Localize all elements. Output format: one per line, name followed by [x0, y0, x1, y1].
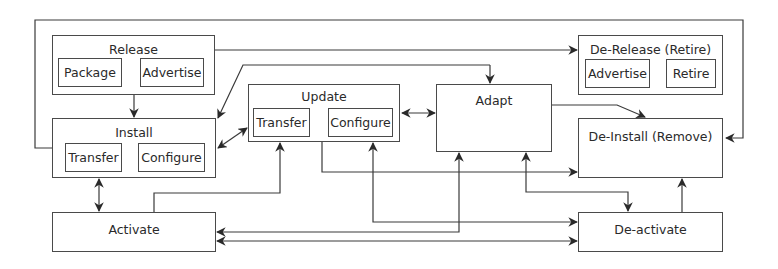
adapt-box: Adapt — [436, 84, 552, 152]
de-activate-box: De-activate — [578, 212, 723, 252]
de-install-box: De-Install (Remove) — [578, 118, 723, 178]
release-advertise-step: Advertise — [140, 58, 204, 87]
de-activate-title: De-activate — [579, 222, 722, 237]
de-release-title: De-Release (Retire) — [579, 42, 722, 57]
install-transfer-step: Transfer — [65, 143, 122, 172]
activate-title: Activate — [53, 222, 215, 237]
adapt-title: Adapt — [437, 93, 551, 108]
de-release-retire-step: Retire — [666, 59, 716, 88]
de-release-advertise-step: Advertise — [585, 59, 650, 88]
update-transfer-step: Transfer — [253, 108, 310, 137]
release-package-step: Package — [58, 58, 122, 87]
activate-box: Activate — [52, 212, 216, 252]
install-configure-step: Configure — [138, 143, 205, 172]
install-title: Install — [53, 125, 215, 140]
update-configure-step: Configure — [328, 108, 393, 137]
de-install-title: De-Install (Remove) — [579, 129, 722, 144]
update-title: Update — [249, 89, 399, 104]
release-title: Release — [53, 42, 214, 57]
